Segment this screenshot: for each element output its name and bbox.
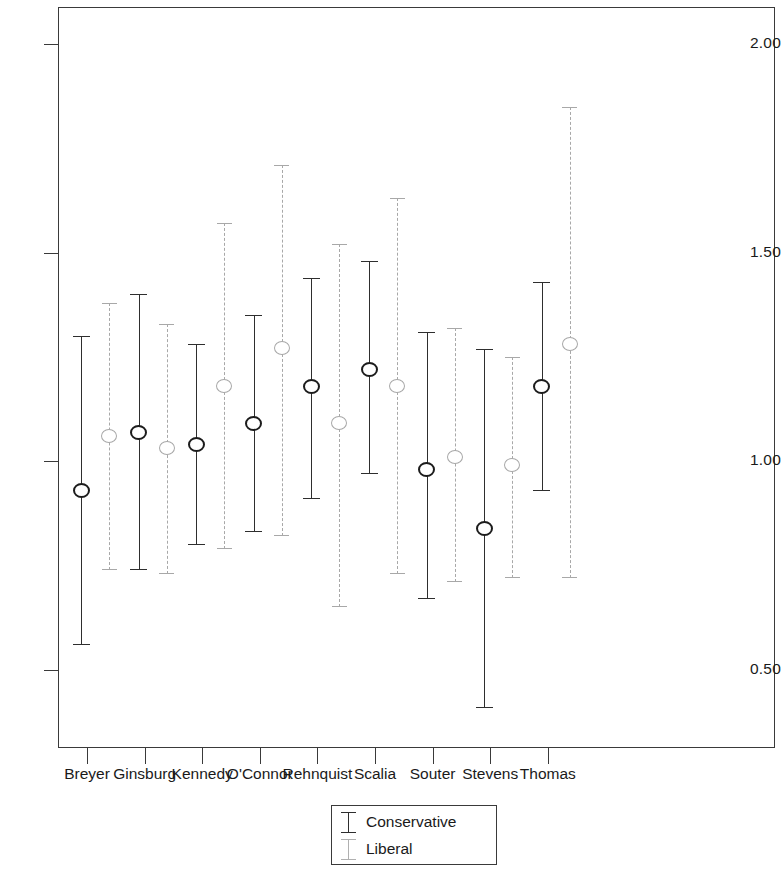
data-point-marker [159, 441, 175, 455]
x-axis-tick [202, 748, 203, 764]
x-axis-tick-label: Scalia [354, 765, 396, 783]
errorbar-lower-cap [159, 573, 174, 574]
legend-item-conservative: Conservative [332, 808, 496, 836]
chart-figure: 2.001.501.000.50 BreyerGinsburgKennedyO'… [0, 0, 781, 872]
errorbar-lower-cap [102, 569, 117, 570]
errorbar-lower-cap [130, 569, 147, 570]
errorbar-lower-cap [562, 577, 577, 578]
data-point-marker [562, 337, 578, 351]
plot-area [58, 7, 775, 748]
errorbar-lower-cap [303, 498, 320, 499]
data-point-marker [533, 379, 550, 394]
x-axis-tick [317, 748, 318, 764]
data-point-marker [447, 450, 463, 464]
x-axis-tick-label: Souter [410, 765, 456, 783]
legend-label-conservative: Conservative [366, 813, 456, 831]
x-axis-tick-label: Breyer [64, 765, 110, 783]
x-axis-tick-label: Kennedy [172, 765, 233, 783]
y-axis-tick-label: 2.00 [735, 34, 781, 52]
data-point-marker [361, 362, 378, 377]
x-axis-tick [548, 748, 549, 764]
errorbar-dashed-icon [332, 836, 366, 862]
x-axis-tick-label: Stevens [462, 765, 518, 783]
data-point-marker [216, 379, 232, 393]
y-axis-tick [44, 461, 58, 462]
errorbar-lower-cap [274, 535, 289, 536]
data-point-marker [130, 425, 147, 440]
errorbar-lower-cap [390, 573, 405, 574]
errorbar-lower-cap [418, 598, 435, 599]
data-point-marker [101, 429, 117, 443]
errorbar-lower-cap [476, 707, 493, 708]
data-point-marker [476, 521, 493, 536]
data-point-marker [274, 341, 290, 355]
data-point-marker [303, 379, 320, 394]
errorbar-lower-cap [217, 548, 232, 549]
errorbar-lower-cap [332, 606, 347, 607]
legend: Conservative Liberal [331, 805, 497, 865]
x-axis-tick [375, 748, 376, 764]
data-point-marker [73, 483, 90, 498]
legend-item-liberal: Liberal [332, 835, 496, 863]
y-axis-tick-label: 0.50 [735, 660, 781, 678]
errorbar-lower-cap [245, 531, 262, 532]
x-axis-tick [433, 748, 434, 764]
errorbar-lower-cap [73, 644, 90, 645]
data-point-marker [389, 379, 405, 393]
y-axis-tick [44, 253, 58, 254]
x-axis-tick-label: Thomas [520, 765, 576, 783]
errorbar-lower-cap [505, 577, 520, 578]
x-axis-tick [260, 748, 261, 764]
errorbar-lower-cap [533, 490, 550, 491]
x-axis-tick [87, 748, 88, 764]
x-axis-tick [145, 748, 146, 764]
x-axis-tick-label: Rehnquist [282, 765, 352, 783]
y-axis-tick-label: 1.00 [735, 451, 781, 469]
errorbar-lower-cap [188, 544, 205, 545]
y-axis-tick-label: 1.50 [735, 243, 781, 261]
y-axis-tick [44, 670, 58, 671]
x-axis-tick-label: Ginsburg [113, 765, 176, 783]
data-point-marker [188, 437, 205, 452]
legend-label-liberal: Liberal [366, 840, 413, 858]
errorbar-lower-cap [447, 581, 462, 582]
y-axis-tick [44, 44, 58, 45]
errorbar-solid-icon [332, 809, 366, 835]
x-axis-tick [490, 748, 491, 764]
errorbar-lower-cap [361, 473, 378, 474]
